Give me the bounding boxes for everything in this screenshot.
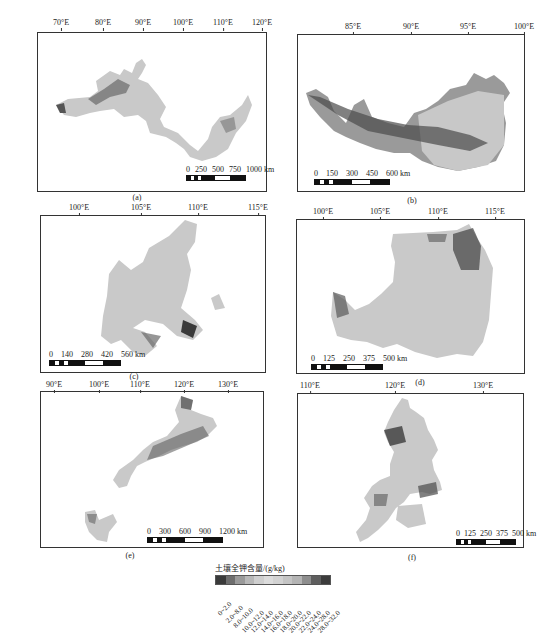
x-tick-label: 115°E bbox=[248, 203, 268, 212]
legend-title: 土壤全钾含量/(g/kg) bbox=[215, 562, 331, 573]
x-tick-label: 110°E bbox=[300, 381, 320, 390]
legend-swatch bbox=[264, 576, 274, 584]
legend-swatch bbox=[292, 576, 302, 584]
scale-label: 750 bbox=[229, 165, 241, 174]
x-tick-label: 70°E bbox=[53, 18, 69, 27]
scale-label: 300 bbox=[159, 527, 171, 536]
x-tick-label: 80°E bbox=[95, 18, 111, 27]
x-tick-label: 90°E bbox=[46, 380, 62, 389]
scale-label: 375 bbox=[496, 529, 508, 538]
legend-swatch bbox=[321, 576, 331, 584]
x-tick-label: 120°E bbox=[174, 380, 194, 389]
scale-label: 250 bbox=[195, 165, 207, 174]
scale-label: 0 bbox=[314, 169, 318, 178]
scale-label: 300 bbox=[346, 169, 358, 178]
scale-label: 420 bbox=[101, 350, 113, 359]
map-frame-c: 0 140 280 420 560 km bbox=[40, 215, 266, 373]
x-tick-label: 100°E bbox=[69, 203, 89, 212]
scale-label: 500 km bbox=[512, 529, 536, 538]
legend-swatch bbox=[273, 576, 283, 584]
scale-label: 125 bbox=[323, 354, 335, 363]
region-map-d bbox=[297, 220, 526, 375]
scale-bar-f: 0 125 250 375 500 km bbox=[456, 529, 536, 545]
scale-label: 150 bbox=[326, 169, 338, 178]
legend: 土壤全钾含量/(g/kg) 0~2.02.0~8.08.0~10.010.0~1… bbox=[215, 562, 331, 625]
panel-caption-e: (e) bbox=[126, 551, 135, 560]
legend-color-bar bbox=[215, 575, 331, 585]
x-tick-label: 120°E bbox=[252, 18, 272, 27]
x-tick-label: 100°E bbox=[173, 18, 193, 27]
x-tick-label: 105°E bbox=[131, 203, 151, 212]
scale-label: 0 bbox=[186, 165, 190, 174]
panel-caption-b: (b) bbox=[407, 196, 416, 205]
scale-label: 0 bbox=[49, 350, 53, 359]
map-frame-d: 0 125 250 375 500 km bbox=[296, 219, 525, 374]
scale-label: 1200 km bbox=[219, 527, 247, 536]
scale-label: 0 bbox=[311, 354, 315, 363]
legend-swatch bbox=[311, 576, 321, 584]
legend-swatch bbox=[245, 576, 255, 584]
scale-bar-c: 0 140 280 420 560 km bbox=[49, 350, 145, 366]
scale-label: 140 bbox=[61, 350, 73, 359]
map-frame-a: 0 250 500 750 1000 km bbox=[37, 32, 267, 192]
legend-swatch bbox=[283, 576, 293, 584]
legend-swatch bbox=[216, 576, 226, 584]
map-frame-b: 0 150 300 450 600 km bbox=[297, 34, 525, 192]
x-tick-label: 90°E bbox=[403, 22, 419, 31]
x-tick-label: 100°E bbox=[514, 22, 534, 31]
legend-swatch bbox=[302, 576, 312, 584]
region-map-e bbox=[41, 392, 265, 549]
legend-swatch bbox=[226, 576, 236, 584]
map-frame-f: 0 125 250 375 500 km bbox=[297, 393, 524, 548]
scale-label: 250 bbox=[480, 529, 492, 538]
scale-label: 125 bbox=[464, 529, 476, 538]
legend-swatch bbox=[235, 576, 245, 584]
legend-labels: 0~2.02.0~8.08.0~10.010.0~12.012.0~14.014… bbox=[215, 585, 331, 625]
x-tick-label: 95°E bbox=[460, 22, 476, 31]
scale-label: 0 bbox=[147, 527, 151, 536]
scale-label: 1000 km bbox=[246, 165, 274, 174]
scale-label: 560 km bbox=[121, 350, 145, 359]
x-tick-label: 110°E bbox=[428, 207, 448, 216]
x-tick-label: 115°E bbox=[485, 207, 505, 216]
scale-label: 600 km bbox=[386, 169, 410, 178]
scale-label: 450 bbox=[366, 169, 378, 178]
scale-label: 600 bbox=[179, 527, 191, 536]
scale-label: 375 bbox=[363, 354, 375, 363]
x-tick-label: 130°E bbox=[218, 380, 238, 389]
scale-label: 900 bbox=[199, 527, 211, 536]
scale-bar-a: 0 250 500 750 1000 km bbox=[186, 165, 274, 181]
x-tick-label: 110°E bbox=[188, 203, 208, 212]
region-map-f bbox=[298, 394, 525, 549]
scale-label: 500 km bbox=[383, 354, 407, 363]
x-tick-label: 120°E bbox=[385, 381, 405, 390]
x-tick-label: 105°E bbox=[370, 207, 390, 216]
x-tick-label: 100°E bbox=[89, 380, 109, 389]
x-tick-label: 85°E bbox=[345, 22, 361, 31]
panel-caption-f: (f) bbox=[408, 553, 416, 562]
scale-bar-d: 0 125 250 375 500 km bbox=[311, 354, 407, 370]
x-tick-label: 100°E bbox=[313, 207, 333, 216]
panel-caption-d: (d) bbox=[415, 378, 424, 387]
panel-caption-a: (a) bbox=[133, 193, 142, 202]
scale-label: 500 bbox=[212, 165, 224, 174]
scale-label: 280 bbox=[81, 350, 93, 359]
legend-swatch bbox=[254, 576, 264, 584]
x-tick-label: 90°E bbox=[135, 18, 151, 27]
x-tick-label: 110°E bbox=[130, 380, 150, 389]
scale-label: 0 bbox=[456, 529, 460, 538]
map-frame-e: 0 300 600 900 1200 km bbox=[40, 391, 264, 548]
x-tick-label: 130°E bbox=[473, 381, 493, 390]
scale-bar-e: 0 300 600 900 1200 km bbox=[147, 527, 247, 543]
x-tick-label: 110°E bbox=[213, 18, 233, 27]
scale-label: 250 bbox=[343, 354, 355, 363]
scale-bar-b: 0 150 300 450 600 km bbox=[314, 169, 410, 185]
